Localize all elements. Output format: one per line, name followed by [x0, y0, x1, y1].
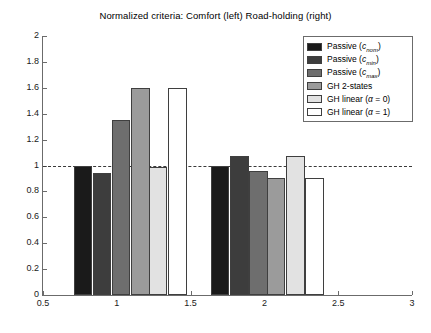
y-tick-label: 1.8 — [3, 56, 39, 66]
bar — [249, 171, 267, 295]
legend-swatch — [307, 43, 322, 51]
bar — [131, 88, 149, 295]
legend-item[interactable]: Passive (cmin) — [307, 53, 408, 66]
legend-item-label: Passive (cnom) — [327, 41, 381, 53]
legend-item-label: GH 2-states — [327, 81, 372, 91]
legend-item[interactable]: GH linear (α = 1) — [307, 105, 408, 118]
legend-swatch — [307, 82, 322, 90]
legend-item-label: GH linear (α = 0) — [327, 94, 390, 104]
bar — [211, 166, 229, 296]
y-tick-label: 1.2 — [3, 134, 39, 144]
bar — [74, 166, 92, 296]
legend-swatch — [307, 69, 322, 77]
y-tick-label: 1.4 — [3, 108, 39, 118]
x-tick-label: 1 — [97, 298, 137, 308]
chart-figure: Normalized criteria: Comfort (left) Road… — [0, 0, 431, 333]
legend-item[interactable]: GH 2-states — [307, 79, 408, 92]
y-tick-label: 0.8 — [3, 185, 39, 195]
y-tick-label: 0.6 — [3, 211, 39, 221]
legend-swatch — [307, 95, 322, 103]
x-tick-label: 2.5 — [318, 298, 358, 308]
legend-item[interactable]: GH linear (α = 0) — [307, 92, 408, 105]
x-tick-label: 3 — [392, 298, 431, 308]
bar — [230, 156, 248, 295]
legend-swatch — [307, 108, 322, 116]
legend-item-label: GH linear (α = 1) — [327, 107, 390, 117]
bar — [168, 88, 186, 295]
legend-item-label: Passive (cmin) — [327, 54, 379, 66]
bar — [149, 167, 167, 295]
legend-item[interactable]: Passive (cnom) — [307, 40, 408, 53]
bar — [93, 173, 111, 295]
x-tick-label: 1.5 — [171, 298, 211, 308]
x-tick-label: 2 — [244, 298, 284, 308]
bar — [305, 178, 323, 295]
y-tick-label: 2 — [3, 30, 39, 40]
y-tick-label: 0.2 — [3, 263, 39, 273]
bar — [267, 178, 285, 295]
bar — [286, 156, 304, 295]
y-tick-label: 1 — [3, 160, 39, 170]
legend-item-label: Passive (cmax) — [327, 67, 380, 79]
x-tick-mark — [412, 291, 413, 295]
x-axis-line — [42, 295, 412, 296]
legend-item[interactable]: Passive (cmax) — [307, 66, 408, 79]
x-tick-label: 0.5 — [23, 298, 63, 308]
y-tick-label: 0.4 — [3, 237, 39, 247]
bar — [112, 120, 130, 295]
legend-swatch — [307, 56, 322, 64]
chart-title: Normalized criteria: Comfort (left) Road… — [0, 10, 431, 21]
y-tick-mark — [43, 295, 47, 296]
y-tick-label: 1.6 — [3, 82, 39, 92]
chart-legend: Passive (cnom)Passive (cmin)Passive (cma… — [303, 36, 413, 122]
